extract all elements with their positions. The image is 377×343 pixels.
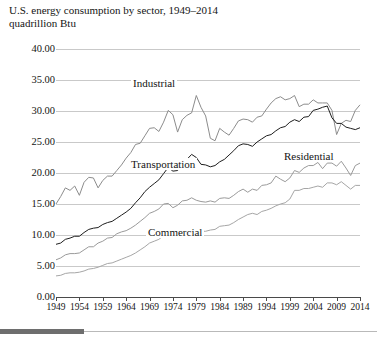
x-axis-tick xyxy=(220,297,221,301)
page-title: U.S. energy consumption by sector, 1949–… xyxy=(9,4,218,17)
x-axis-tick-label: 2014 xyxy=(351,302,370,312)
x-axis-tick xyxy=(337,297,338,301)
energy-consumption-chart: U.S. energy consumption by sector, 1949–… xyxy=(0,0,377,343)
series-label-commercial: Commercial xyxy=(146,226,204,238)
x-axis-tick xyxy=(79,297,80,301)
y-axis-tick-label: 35.00 xyxy=(9,74,55,85)
series-layer xyxy=(56,49,360,297)
x-axis-tick-label: 1964 xyxy=(117,302,136,312)
x-axis-tick-label: 1949 xyxy=(47,302,66,312)
x-axis-tick xyxy=(313,297,314,301)
x-axis-tick-label: 1989 xyxy=(234,302,253,312)
y-axis-tick-label: 10.00 xyxy=(9,229,55,240)
x-axis-tick xyxy=(360,297,361,301)
x-axis-tick-label: 2004 xyxy=(304,302,323,312)
x-axis-tick xyxy=(290,297,291,301)
footer-swatch xyxy=(0,329,84,334)
plot-area xyxy=(56,49,360,297)
x-axis-tick xyxy=(243,297,244,301)
x-axis-tick-label: 1954 xyxy=(70,302,89,312)
x-axis-tick-label: 1969 xyxy=(140,302,159,312)
x-axis-tick xyxy=(150,297,151,301)
x-axis-tick-label: 1979 xyxy=(187,302,206,312)
x-axis-tick-label: 1959 xyxy=(93,302,112,312)
x-axis-tick xyxy=(196,297,197,301)
y-axis-tick-label: 0.00 xyxy=(9,291,55,302)
x-axis-tick-label: 2009 xyxy=(327,302,346,312)
y-axis-tick-label: 25.00 xyxy=(9,136,55,147)
gridline xyxy=(56,297,360,298)
chart-subtitle: quadrillion Btu xyxy=(9,17,218,30)
x-axis-tick-label: 1974 xyxy=(163,302,182,312)
x-axis-tick xyxy=(103,297,104,301)
y-axis-tick-label: 15.00 xyxy=(9,198,55,209)
x-axis-tick-label: 1984 xyxy=(210,302,229,312)
y-axis-tick-label: 40.00 xyxy=(9,43,55,54)
x-axis-tick xyxy=(56,297,57,301)
chart-title-block: U.S. energy consumption by sector, 1949–… xyxy=(9,4,218,30)
y-axis-tick-label: 5.00 xyxy=(9,260,55,271)
series-label-industrial: Industrial xyxy=(131,77,177,89)
x-axis-tick xyxy=(266,297,267,301)
x-axis-tick xyxy=(173,297,174,301)
y-axis-tick-label: 20.00 xyxy=(9,167,55,178)
y-axis-tick-label: 30.00 xyxy=(9,105,55,116)
x-axis-tick-label: 1999 xyxy=(280,302,299,312)
series-label-transportation: Transportation xyxy=(129,158,197,170)
series-line-commercial xyxy=(56,182,360,276)
series-line-residential xyxy=(56,161,360,260)
x-axis-tick-label: 1994 xyxy=(257,302,276,312)
x-axis-tick xyxy=(126,297,127,301)
series-label-residential: Residential xyxy=(282,150,336,162)
